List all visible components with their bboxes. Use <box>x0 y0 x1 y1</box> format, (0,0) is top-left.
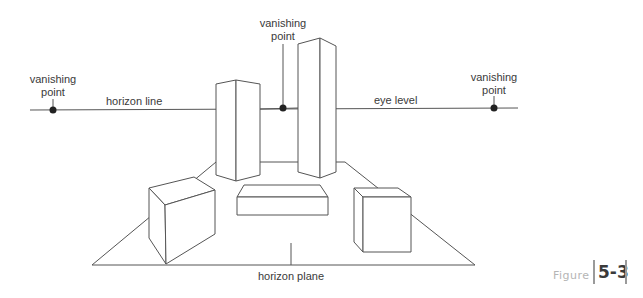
middle-flat-box <box>237 185 328 215</box>
label-vp-left-line2: point <box>41 86 65 98</box>
left-tower <box>216 80 260 181</box>
vanishing-point-left <box>50 99 57 114</box>
vanishing-point-right-dot <box>491 105 498 112</box>
label-vp-center-line2: point <box>271 30 295 42</box>
label-horizon-plane: horizon plane <box>258 270 324 282</box>
label-horizon-line: horizon line <box>106 95 162 107</box>
label-eye-level: eye level <box>374 94 417 106</box>
label-vp-right-line1: vanishing <box>471 71 517 83</box>
label-vp-center-line1: vanishing <box>260 17 306 29</box>
perspective-diagram: vanishing point vanishing point vanishin… <box>0 0 643 298</box>
right-tower <box>298 38 336 178</box>
label-vp-left-line1: vanishing <box>30 73 76 85</box>
figure-number: 5-3 <box>598 262 629 282</box>
right-cube <box>354 188 411 252</box>
label-vp-right-line2: point <box>482 84 506 96</box>
figure-word: Figure <box>553 269 590 282</box>
vanishing-point-center <box>260 44 298 112</box>
vanishing-point-right <box>491 96 498 112</box>
vanishing-point-left-dot <box>50 107 57 114</box>
figure-caption: Figure 5-3 <box>553 260 629 284</box>
vanishing-point-center-dot <box>280 105 287 112</box>
